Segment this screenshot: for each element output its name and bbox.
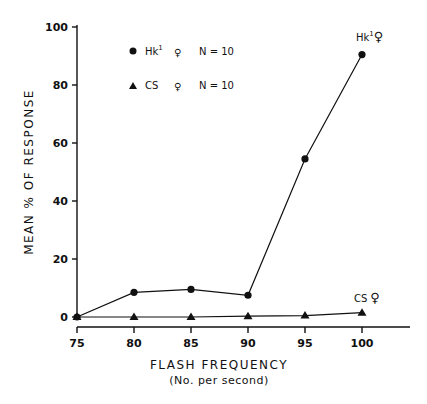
- cs-series-line: [77, 313, 362, 317]
- x-axis-title: FLASH FREQUENCY: [150, 358, 288, 372]
- annotation-hk: Hk1♀: [356, 29, 383, 44]
- y-tick-label: 60: [53, 137, 69, 150]
- x-tick-label: 80: [126, 337, 142, 350]
- y-tick-label: 0: [60, 311, 68, 324]
- legend-hk-n: N = 10: [199, 46, 234, 57]
- data-point-circle: [244, 292, 251, 299]
- data-point-triangle: [187, 313, 196, 321]
- data-point-circle: [301, 155, 308, 162]
- x-tick-label: 95: [297, 337, 312, 350]
- legend-triangle-marker: [129, 82, 137, 89]
- y-axis-title: MEAN % OF RESPONSE: [22, 89, 36, 255]
- data-point-triangle: [130, 313, 139, 321]
- legend-hk-sex: ♀: [174, 47, 181, 58]
- chart: 0204060801007580859095100 Hk1 ♀ N = 10 C…: [0, 0, 427, 404]
- x-tick-label: 90: [240, 337, 256, 350]
- legend-hk-label: Hk1: [145, 44, 163, 57]
- y-tick-label: 80: [53, 79, 69, 92]
- annotation-cs: CS♀: [354, 290, 380, 305]
- x-tick-label: 100: [351, 337, 374, 350]
- y-tick-label: 40: [53, 195, 69, 208]
- legend-cs-sex: ♀: [174, 81, 181, 92]
- data-point-circle: [130, 289, 137, 296]
- hk-series-line: [77, 55, 362, 317]
- data-point-circle: [358, 51, 365, 58]
- data-point-circle: [187, 286, 194, 293]
- x-axis-subtitle: (No. per second): [169, 374, 268, 387]
- legend-cs-n: N = 10: [199, 80, 234, 91]
- y-tick-label: 100: [45, 21, 68, 34]
- legend: Hk1 ♀ N = 10 CS ♀ N = 10: [129, 44, 234, 92]
- data-point-triangle: [358, 308, 367, 316]
- y-tick-label: 20: [53, 253, 69, 266]
- data-point-triangle: [244, 312, 253, 320]
- legend-cs-label: CS: [145, 80, 158, 91]
- x-tick-label: 75: [69, 337, 84, 350]
- legend-circle-marker: [130, 48, 137, 55]
- annotations: Hk1♀ CS♀: [354, 29, 383, 305]
- series: [73, 51, 367, 321]
- x-tick-label: 85: [183, 337, 198, 350]
